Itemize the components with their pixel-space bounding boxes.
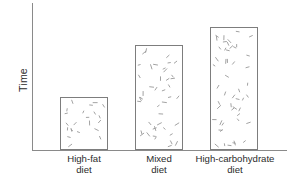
bar-texture-icon bbox=[136, 46, 182, 149]
bar-chart-figure: Time High-fat diet Mixed diet High-carbo… bbox=[0, 0, 299, 191]
bar-texture-icon bbox=[61, 98, 107, 149]
category-label-high-carbohydrate-diet: High-carbohydrate diet bbox=[165, 153, 299, 176]
bar-texture-icon bbox=[211, 28, 257, 149]
bar-high-carbohydrate-diet bbox=[210, 27, 258, 150]
x-axis-line bbox=[32, 150, 287, 151]
bar-mixed-diet bbox=[135, 45, 183, 150]
category-label-line1: High-carbohydrate bbox=[165, 153, 299, 164]
y-axis-title: Time bbox=[0, 57, 46, 103]
category-label-line2: diet bbox=[165, 164, 299, 175]
bar-high-fat-diet bbox=[60, 97, 108, 150]
